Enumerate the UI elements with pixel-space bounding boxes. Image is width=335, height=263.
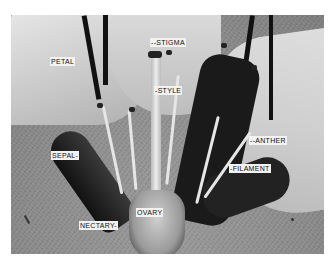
label-stigma: --STIGMA [150,38,186,47]
debris-speck [291,218,294,221]
anther-shape [129,107,135,112]
label-style: -STYLE [154,86,182,95]
pin-stick [269,15,273,120]
label-ovary: OVARY [136,208,163,217]
anther-shape [251,65,257,70]
style-shape [151,55,161,205]
anther-shape [97,103,103,108]
pin-stick [103,15,108,85]
label-nectary: NECTARY- [79,221,118,230]
ovary-shape [129,190,185,254]
label-anther: --ANTHER [249,136,287,145]
label-sepal: SEPAL- [51,151,79,160]
label-petal: PETAL [50,57,75,66]
anther-shape [166,50,172,55]
flower-photo [11,15,324,254]
anther-shape [221,43,227,48]
stigma-shape [148,51,162,58]
label-filament: -FILAMENT [229,164,271,173]
